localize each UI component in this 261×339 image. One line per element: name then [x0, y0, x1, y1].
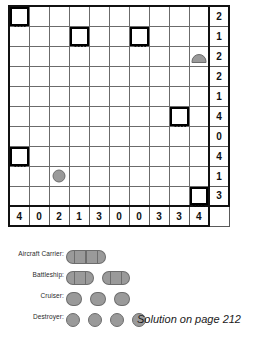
grid-cell[interactable] — [89, 186, 109, 206]
grid-cell[interactable] — [69, 66, 89, 86]
grid-cell[interactable] — [189, 46, 209, 66]
grid-cell[interactable] — [169, 146, 189, 166]
grid-cell[interactable] — [89, 106, 109, 126]
grid-cell[interactable] — [109, 86, 129, 106]
grid-cell[interactable] — [9, 126, 29, 146]
grid-cell[interactable] — [29, 46, 49, 66]
grid-cell[interactable] — [149, 146, 169, 166]
grid-cell[interactable] — [29, 146, 49, 166]
grid-cell[interactable] — [149, 186, 169, 206]
grid-cell[interactable] — [149, 126, 169, 146]
grid-cell[interactable] — [109, 66, 129, 86]
grid-cell[interactable] — [149, 166, 169, 186]
grid-cell[interactable] — [189, 106, 209, 126]
grid-cell[interactable] — [69, 6, 89, 26]
grid-cell[interactable] — [129, 106, 149, 126]
grid-cell[interactable] — [129, 126, 149, 146]
grid-cell[interactable] — [189, 6, 209, 26]
grid-cell[interactable] — [149, 66, 169, 86]
grid-cell[interactable] — [149, 46, 169, 66]
grid-cell[interactable] — [189, 186, 209, 206]
grid-cell[interactable] — [189, 146, 209, 166]
grid-cell[interactable] — [69, 186, 89, 206]
grid-cell[interactable] — [129, 66, 149, 86]
grid-cell[interactable] — [89, 166, 109, 186]
grid-cell[interactable] — [109, 146, 129, 166]
grid-cell[interactable] — [89, 146, 109, 166]
grid-cell[interactable] — [29, 66, 49, 86]
grid-cell[interactable] — [29, 166, 49, 186]
grid-cell[interactable] — [149, 6, 169, 26]
grid-cell[interactable] — [169, 66, 189, 86]
grid-cell[interactable] — [69, 126, 89, 146]
grid-cell[interactable] — [29, 26, 49, 46]
grid-cell[interactable] — [169, 126, 189, 146]
grid-cell[interactable] — [49, 166, 69, 186]
grid-cell[interactable] — [149, 26, 169, 46]
grid-cell[interactable] — [29, 126, 49, 146]
grid-cell[interactable] — [9, 106, 29, 126]
grid-cell[interactable] — [109, 106, 129, 126]
grid-cell[interactable] — [49, 126, 69, 146]
grid-cell[interactable] — [49, 106, 69, 126]
grid-cell[interactable] — [69, 106, 89, 126]
grid-cell[interactable] — [29, 106, 49, 126]
grid-cell[interactable] — [9, 6, 29, 26]
grid-cell[interactable] — [9, 46, 29, 66]
grid-cell[interactable] — [29, 86, 49, 106]
grid-cell[interactable] — [129, 166, 149, 186]
grid-cell[interactable] — [129, 146, 149, 166]
grid-cell[interactable] — [189, 166, 209, 186]
grid-cell[interactable] — [109, 186, 129, 206]
grid-cell[interactable] — [149, 106, 169, 126]
grid-cell[interactable] — [169, 186, 189, 206]
grid-cell[interactable] — [89, 26, 109, 46]
grid-cell[interactable] — [89, 66, 109, 86]
grid-cell[interactable] — [109, 166, 129, 186]
grid-cell[interactable] — [9, 166, 29, 186]
grid-cell[interactable] — [49, 66, 69, 86]
grid-cell[interactable] — [69, 86, 89, 106]
grid-cell[interactable] — [9, 26, 29, 46]
grid-cell[interactable] — [189, 26, 209, 46]
grid-cell[interactable] — [169, 6, 189, 26]
grid-cell[interactable] — [129, 6, 149, 26]
grid-cell[interactable] — [69, 166, 89, 186]
grid-cell[interactable] — [109, 26, 129, 46]
grid-cell[interactable] — [109, 126, 129, 146]
grid-cell[interactable] — [89, 86, 109, 106]
grid-cell[interactable] — [89, 126, 109, 146]
grid-cell[interactable] — [49, 146, 69, 166]
grid-cell[interactable] — [149, 86, 169, 106]
grid-cell[interactable] — [29, 6, 49, 26]
grid-cell[interactable] — [169, 86, 189, 106]
grid-cell[interactable] — [49, 6, 69, 26]
grid-cell[interactable] — [129, 26, 149, 46]
grid-cell[interactable] — [169, 26, 189, 46]
grid-cell[interactable] — [189, 126, 209, 146]
grid-cell[interactable] — [129, 86, 149, 106]
grid-cell[interactable] — [49, 86, 69, 106]
grid-cell[interactable] — [89, 6, 109, 26]
grid-cell[interactable] — [129, 46, 149, 66]
grid-cell[interactable] — [169, 46, 189, 66]
grid-cell[interactable] — [189, 66, 209, 86]
grid-cell[interactable] — [189, 86, 209, 106]
grid-cell[interactable] — [109, 46, 129, 66]
grid-cell[interactable] — [9, 186, 29, 206]
grid-cell[interactable] — [9, 86, 29, 106]
grid-cell[interactable] — [169, 166, 189, 186]
grid-cell[interactable] — [9, 146, 29, 166]
puzzle-grid[interactable]: 21221404134021300334 — [8, 5, 230, 227]
grid-cell[interactable] — [169, 106, 189, 126]
grid-cell[interactable] — [69, 26, 89, 46]
grid-cell[interactable] — [29, 186, 49, 206]
grid-cell[interactable] — [49, 26, 69, 46]
grid-cell[interactable] — [49, 46, 69, 66]
grid-cell[interactable] — [109, 6, 129, 26]
grid-cell[interactable] — [129, 186, 149, 206]
grid-cell[interactable] — [69, 46, 89, 66]
grid-cell[interactable] — [49, 186, 69, 206]
grid-cell[interactable] — [9, 66, 29, 86]
grid-cell[interactable] — [69, 146, 89, 166]
